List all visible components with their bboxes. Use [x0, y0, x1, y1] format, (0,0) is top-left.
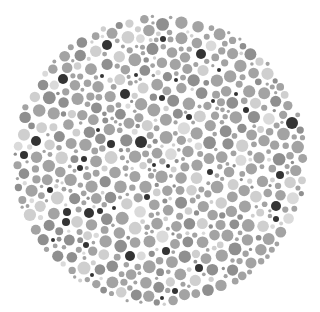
filler-dot — [73, 275, 76, 278]
dark-dot — [84, 208, 94, 218]
filler-dot — [242, 234, 253, 245]
filler-dot — [128, 80, 133, 85]
filler-dot — [53, 243, 58, 248]
filler-dot — [269, 165, 277, 173]
filler-dot — [74, 149, 78, 153]
filler-dot — [142, 150, 149, 157]
dark-dot — [77, 165, 83, 171]
filler-dot — [101, 35, 105, 39]
filler-dot — [191, 127, 203, 139]
filler-dot — [160, 131, 173, 144]
filler-dot — [82, 256, 86, 260]
filler-dot — [186, 185, 197, 196]
filler-dot — [240, 43, 247, 50]
filler-dot — [226, 206, 237, 217]
filler-dot — [77, 37, 88, 48]
filler-dot — [156, 231, 168, 243]
filler-dot — [105, 91, 116, 102]
filler-dot — [279, 222, 283, 226]
filler-dot — [126, 269, 137, 280]
filler-dot — [184, 218, 196, 230]
filler-dot — [109, 167, 121, 179]
filler-dot — [155, 171, 167, 183]
filler-dot — [116, 212, 129, 225]
filler-dot — [143, 25, 155, 37]
filler-dot — [176, 186, 185, 195]
filler-dot — [171, 221, 182, 232]
filler-dot — [84, 80, 92, 88]
filler-dot — [61, 111, 66, 116]
filler-dot — [55, 167, 66, 178]
filler-dot — [62, 88, 69, 95]
filler-dot — [263, 233, 275, 245]
filler-dot — [111, 84, 117, 90]
filler-dot — [221, 86, 232, 97]
filler-dot — [236, 258, 242, 264]
filler-dot — [54, 184, 58, 188]
filler-dot — [170, 239, 180, 249]
filler-dot — [176, 213, 183, 220]
filler-dot — [140, 277, 152, 289]
filler-dot — [57, 237, 62, 242]
filler-dot — [99, 235, 111, 247]
filler-dot — [54, 131, 65, 142]
filler-dot — [32, 175, 40, 183]
filler-dot — [42, 150, 45, 153]
filler-dot — [77, 110, 87, 120]
filler-dot — [220, 120, 225, 125]
filler-dot — [251, 141, 257, 147]
filler-dot — [173, 131, 178, 136]
filler-dot — [258, 258, 264, 264]
filler-dot — [119, 271, 125, 277]
filler-dot — [191, 121, 195, 125]
filler-dot — [270, 178, 275, 183]
filler-dot — [124, 118, 135, 129]
filler-dot — [38, 192, 45, 199]
filler-dot — [227, 31, 230, 34]
filler-dot — [121, 65, 131, 75]
filler-dot — [276, 83, 284, 91]
filler-dot — [143, 57, 148, 62]
filler-dot — [227, 48, 238, 59]
filler-dot — [191, 160, 202, 171]
filler-dot — [177, 136, 186, 145]
filler-dot — [220, 177, 224, 181]
filler-dot — [263, 113, 275, 125]
filler-dot — [243, 85, 255, 97]
filler-dot — [115, 109, 126, 120]
dark-dot — [31, 136, 41, 146]
filler-dot — [101, 26, 106, 31]
filler-dot — [247, 179, 252, 184]
filler-dot — [102, 111, 107, 116]
filler-dot — [238, 230, 243, 235]
filler-dot — [124, 262, 129, 267]
filler-dot — [224, 70, 236, 82]
filler-dot — [45, 199, 48, 202]
filler-dot — [256, 209, 264, 217]
dark-dot — [160, 36, 166, 42]
filler-dot — [263, 189, 272, 198]
filler-dot — [88, 114, 99, 125]
filler-dot — [85, 63, 97, 75]
filler-dot — [129, 184, 135, 190]
filler-dot — [148, 173, 154, 179]
filler-dot — [114, 254, 121, 261]
dark-dot — [134, 73, 138, 77]
filler-dot — [102, 202, 107, 207]
filler-dot — [127, 75, 131, 79]
filler-dot — [160, 145, 163, 148]
filler-dot — [92, 81, 103, 92]
filler-dot — [78, 279, 82, 283]
filler-dot — [236, 81, 243, 88]
filler-dot — [187, 267, 192, 272]
filler-dot — [55, 179, 59, 183]
filler-dot — [123, 165, 129, 171]
filler-dot — [156, 31, 161, 36]
filler-dot — [283, 101, 292, 110]
filler-dot — [155, 248, 158, 251]
filler-dot — [171, 250, 175, 254]
filler-dot — [22, 104, 28, 110]
filler-dot — [227, 264, 238, 275]
filler-dot — [138, 77, 142, 81]
dark-dot — [217, 68, 221, 72]
